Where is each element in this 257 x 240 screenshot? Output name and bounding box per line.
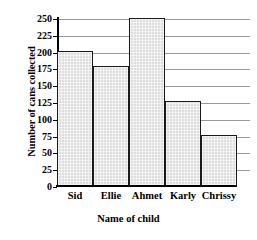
x-axis-tick-labels: SidEllieAhmetKarlyChrissy [57,190,238,206]
y-tick-label: 175 [28,64,52,74]
y-tick-label: 25 [28,165,52,175]
bar-chart-figure: Number of cans collected 250225200175150… [0,0,257,240]
x-axis-title: Name of child [0,213,257,224]
bar-ahmet [129,18,165,185]
y-axis-tick-labels: 2502252001751501251007550250 [28,17,52,187]
x-tick-label: Sid [57,190,93,201]
x-tick-label: Karly [165,190,201,201]
y-tick-mark [53,187,57,188]
plot-area [57,17,250,187]
y-tick-label: 125 [28,98,52,108]
y-tick-label: 50 [28,148,52,158]
y-tick-label: 0 [28,182,52,192]
y-tick-label: 225 [28,31,52,41]
x-tick-label: Ahmet [129,190,165,201]
y-tick-label: 200 [28,48,52,58]
bars-layer [57,17,250,185]
y-tick-label: 100 [28,115,52,125]
x-axis-line [56,185,237,187]
x-tick-label: Chrissy [201,190,237,201]
y-tick-label: 150 [28,81,52,91]
x-tick-label: Ellie [93,190,129,201]
y-tick-label: 75 [28,132,52,142]
bar-ellie [93,66,129,185]
bar-karly [165,101,201,185]
bar-chrissy [201,135,237,185]
bar-sid [57,51,93,185]
y-tick-label: 250 [28,14,52,24]
